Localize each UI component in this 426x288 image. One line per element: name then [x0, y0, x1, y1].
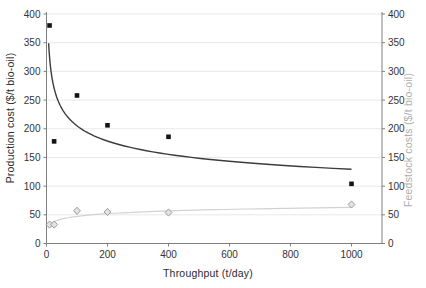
x-axis-tick-label: 800	[282, 249, 299, 260]
left-axis-tick-label: 200	[24, 123, 41, 134]
cost-vs-throughput-chart: 0501001502002503003504000501001502002503…	[0, 0, 426, 288]
left-axis-tick-label: 350	[24, 37, 41, 48]
y-axis-title-feedstock-costs: Feedstock costs ($/t bio-oil)	[402, 73, 414, 207]
right-axis-tick-label: 400	[388, 9, 405, 20]
data-point-square	[52, 139, 57, 144]
data-point-square	[349, 182, 354, 187]
tick-labels: 0501001502002503003504000501001502002503…	[24, 9, 405, 260]
left-axis-tick-label: 400	[24, 9, 41, 20]
x-axis-tick-label: 0	[44, 249, 50, 260]
x-axis-title-throughput: Throughput (t/day)	[163, 267, 253, 279]
data-point-square	[47, 23, 52, 28]
data-point-square	[105, 123, 110, 128]
x-axis-tick-label: 600	[221, 249, 238, 260]
left-axis-tick-label: 100	[24, 181, 41, 192]
right-axis-tick-label: 0	[388, 238, 394, 249]
x-axis-tick-label: 400	[160, 249, 177, 260]
left-axis-tick-label: 300	[24, 66, 41, 77]
axes	[44, 12, 386, 247]
right-axis-tick-label: 350	[388, 37, 405, 48]
gridlines	[47, 14, 383, 215]
x-axis-tick-label: 1000	[340, 249, 363, 260]
production-cost-points	[47, 23, 354, 186]
data-point-square	[166, 134, 171, 139]
data-point-square	[75, 93, 80, 98]
left-axis-tick-label: 50	[29, 209, 41, 220]
data-point-diamond	[74, 207, 81, 214]
bio-oil-cost-chart-figure: 0501001502002503003504000501001502002503…	[0, 0, 426, 288]
production-trend-line	[49, 43, 352, 169]
data-point-diamond	[51, 221, 58, 228]
left-axis-tick-label: 0	[35, 238, 41, 249]
left-axis-tick-label: 250	[24, 95, 41, 106]
y-axis-title-production-cost: Production cost ($/t bio-oil)	[4, 53, 16, 184]
left-axis-tick-label: 150	[24, 152, 41, 163]
x-axis-tick-label: 200	[99, 249, 116, 260]
feedstock-trend-line	[49, 207, 352, 226]
right-axis-tick-label: 50	[388, 209, 400, 220]
